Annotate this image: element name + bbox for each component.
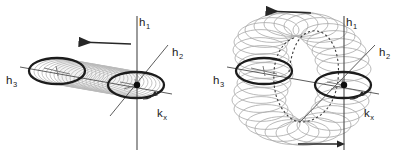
label-h1: h1 xyxy=(139,16,150,31)
torus-ellipse-stack xyxy=(232,12,371,146)
label-kx: kx xyxy=(364,107,374,122)
dashed-guide-path xyxy=(274,31,339,122)
panel-right: h1 h2 h3 kx xyxy=(213,11,390,150)
origin-dot xyxy=(341,82,347,88)
label-h3: h3 xyxy=(213,74,224,89)
label-h2: h2 xyxy=(172,46,183,61)
figure-root: h1 h2 h3 kx xyxy=(0,0,404,155)
label-h3: h3 xyxy=(6,74,17,89)
label-kx: kx xyxy=(157,107,167,122)
label-h1: h1 xyxy=(346,16,357,31)
label-h2: h2 xyxy=(379,46,390,61)
precession-arrow xyxy=(80,42,131,44)
figure-svg: h1 h2 h3 kx xyxy=(0,0,404,155)
panel-left: h1 h2 h3 kx xyxy=(6,16,183,150)
origin-dot xyxy=(134,82,140,88)
